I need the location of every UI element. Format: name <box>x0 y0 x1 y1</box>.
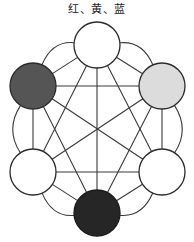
outer-arc-lower-right-to-bottom <box>120 193 153 215</box>
color-node-upper-left[interactable] <box>10 63 56 109</box>
color-wheel-diagram <box>0 0 194 242</box>
color-node-top[interactable] <box>74 22 120 68</box>
chord-lower-right-to-bottom <box>116 184 142 200</box>
chord-top-to-upper-right <box>116 57 142 73</box>
chord-top-to-upper-left <box>52 57 77 73</box>
color-node-bottom[interactable] <box>74 190 120 236</box>
outer-arc-top-to-upper-right <box>120 43 153 65</box>
color-node-upper-right[interactable] <box>139 63 185 109</box>
color-node-lower-left[interactable] <box>10 149 56 195</box>
chord-bottom-to-lower-left <box>52 184 77 200</box>
outer-arc-bottom-to-lower-left <box>42 193 74 215</box>
outer-arc-upper-left-to-top <box>42 43 74 65</box>
outer-arc-lower-left-to-upper-left <box>13 105 21 152</box>
outer-arc-upper-right-to-lower-right <box>174 105 182 152</box>
color-node-lower-right[interactable] <box>139 149 185 195</box>
color-wheel-figure: 红、黄、蓝 <box>0 0 194 242</box>
